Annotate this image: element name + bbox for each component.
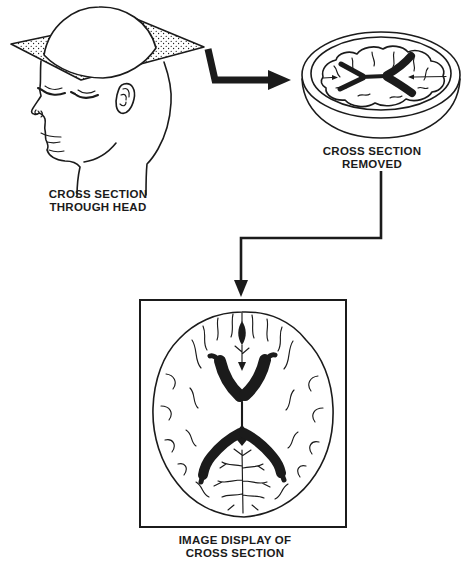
elbow-arrow-icon (234, 171, 381, 297)
bent-arrow-shaft (208, 49, 269, 80)
elbow-arrow-line (241, 171, 381, 282)
jaw-line (84, 143, 116, 162)
mouth-line (41, 133, 64, 152)
slice-midline-right (414, 77, 446, 78)
head-caption-line2: THROUGH HEAD (13, 201, 183, 214)
slice-ventricle-prong-lower (340, 78, 363, 89)
posterior-horn-left-tip (201, 474, 203, 482)
bent-arrow-icon (208, 49, 291, 90)
diagram-page: CROSS SECTION THROUGH HEAD CROSS SECTION… (0, 0, 469, 563)
display-caption: IMAGE DISPLAY OF CROSS SECTION (150, 534, 320, 560)
slice-ventricles (340, 56, 412, 93)
head-side-line (146, 62, 171, 195)
slice-midline-left (323, 78, 332, 79)
head-figure (11, 7, 204, 196)
face-profile-line (32, 61, 80, 196)
display-figure (140, 300, 346, 527)
slice-caption-line1: CROSS SECTION (287, 145, 457, 158)
slice-midline-right-arrowhead (408, 75, 414, 80)
head-caption: CROSS SECTION THROUGH HEAD (13, 188, 183, 214)
slice-midline-left-arrowhead (332, 75, 338, 80)
posterior-horn-right-tip (281, 472, 284, 480)
head-caption-line1: CROSS SECTION (13, 188, 183, 201)
slice-figure (302, 32, 460, 138)
right-eyelid-crease (78, 90, 95, 93)
slice-ventricle-arm-upper (387, 56, 411, 75)
skull-cap (44, 7, 156, 78)
slice-caption: CROSS SECTION REMOVED (287, 145, 457, 171)
bent-arrow-head (268, 70, 291, 90)
ear-inner-lines (120, 89, 129, 106)
display-caption-line1: IMAGE DISPLAY OF (150, 534, 320, 547)
slice-ventricle-bar (361, 76, 386, 77)
left-eyelid-crease (45, 86, 62, 89)
slice-ventricle-arm-lower (387, 77, 412, 93)
slice-caption-line2: REMOVED (287, 158, 457, 171)
diagram-canvas (0, 0, 469, 563)
elbow-arrow-head (234, 280, 248, 297)
display-caption-line2: CROSS SECTION (150, 547, 320, 560)
slice-ventricle-prong-upper (341, 64, 363, 76)
